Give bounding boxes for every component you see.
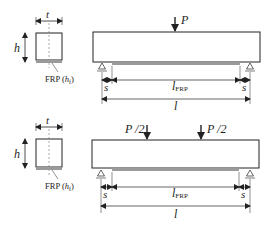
- frp-length-label: lFRP: [172, 186, 188, 200]
- frp-strip: [112, 168, 239, 171]
- span-label: l: [174, 99, 178, 113]
- diagram-four-point: t h FRP (hf) P /2 P /2: [14, 114, 259, 221]
- frp-strip-section: [36, 167, 62, 170]
- frp-leader: [52, 170, 58, 179]
- beam-elevation: P /2 P /2 s s lFRP l: [92, 122, 259, 221]
- beam: [92, 140, 259, 168]
- width-label: t: [46, 114, 50, 126]
- s-left-label: s: [103, 188, 107, 200]
- support-right: [245, 170, 255, 178]
- s-right-label: s: [241, 188, 245, 200]
- support-left: [97, 63, 107, 71]
- frp-strip-section: [36, 60, 62, 63]
- load-label: P: [180, 13, 189, 27]
- load-label-left: P /2: [124, 122, 144, 136]
- frp-label: FRP (hf): [45, 74, 74, 85]
- frp-beam-test-diagram: t h FRP (hf) P: [0, 0, 270, 225]
- diagram-three-point: t h FRP (hf) P: [14, 8, 260, 113]
- support-right: [245, 63, 255, 71]
- height-label: h: [14, 147, 20, 161]
- cross-section: t h FRP (hf): [14, 8, 74, 85]
- frp-length-label: lFRP: [172, 79, 188, 93]
- beam-elevation: P s s lFRP l: [93, 13, 260, 113]
- support-left: [96, 170, 106, 178]
- load-label-right: P /2: [206, 122, 226, 136]
- span-label: l: [174, 207, 178, 221]
- frp-leader: [52, 63, 58, 72]
- frp-label: FRP (hf): [45, 181, 74, 192]
- s-right-label: s: [242, 81, 246, 93]
- cross-section: t h FRP (hf): [14, 114, 74, 192]
- beam: [93, 32, 260, 62]
- height-label: h: [14, 41, 20, 55]
- width-label: t: [46, 8, 50, 20]
- s-left-label: s: [104, 81, 108, 93]
- frp-strip: [112, 62, 240, 65]
